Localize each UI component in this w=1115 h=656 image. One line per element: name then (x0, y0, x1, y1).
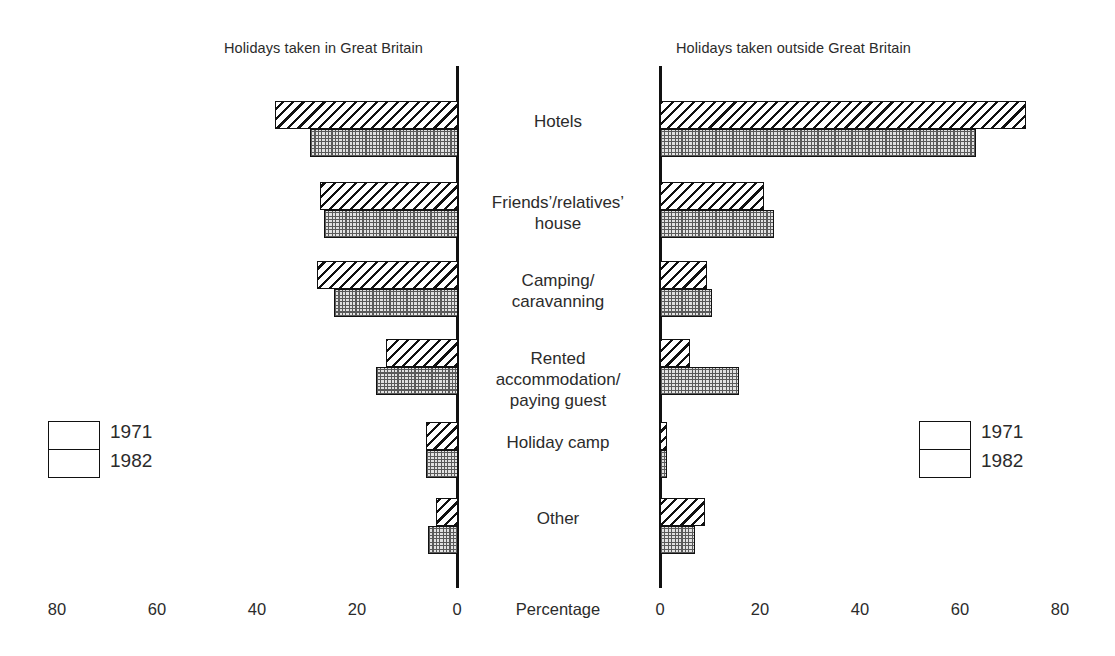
bar-left-other-1971 (436, 498, 458, 526)
chart-container: Holidays taken in Great Britain Holidays… (0, 0, 1115, 656)
category-label-line: Rented (462, 348, 654, 369)
category-label-other: Other (462, 508, 654, 529)
category-label-friends-relatives-house: Friends’/relatives’ house (462, 192, 654, 234)
bar-right-friends-relatives-house-1971 (660, 182, 764, 210)
legend-swatch-1971 (919, 421, 971, 450)
bar-left-camping-caravanning-1971 (317, 261, 458, 289)
category-label-rented-accommodation-paying-guest: Rented accommodation/ paying guest (462, 348, 654, 411)
category-label-camping-caravanning: Camping/ caravanning (462, 270, 654, 312)
xtick-right-20: 20 (730, 600, 790, 619)
bar-right-holiday-camp-1971 (660, 422, 667, 450)
legend-swatch-1971 (48, 421, 100, 450)
axis-caption-percentage: Percentage (458, 600, 658, 619)
xtick-left-60: 60 (127, 600, 187, 619)
category-label-line: house (462, 213, 654, 234)
xtick-left-20: 20 (327, 600, 387, 619)
xtick-right-80: 80 (1030, 600, 1090, 619)
bar-right-holiday-camp-1982 (660, 450, 667, 478)
bar-left-holiday-camp-1971 (426, 422, 458, 450)
legend-swatch-1982 (919, 449, 971, 478)
legend-label-1982: 1982 (110, 446, 152, 475)
legend-swatch-1982 (48, 449, 100, 478)
legend-label-1982: 1982 (981, 446, 1023, 475)
xtick-left-80: 80 (27, 600, 87, 619)
bar-left-camping-caravanning-1982 (334, 289, 458, 317)
legend-label-1971: 1971 (110, 417, 152, 446)
panel-title-left: Holidays taken in Great Britain (224, 40, 423, 56)
category-label-hotels: Hotels (462, 111, 654, 132)
category-label-line: Hotels (462, 111, 654, 132)
bar-right-hotels-1971 (660, 101, 1026, 129)
category-label-line: Other (462, 508, 654, 529)
bar-right-rented-accommodation-paying-guest-1971 (660, 339, 690, 367)
bar-left-hotels-1971 (275, 101, 458, 129)
legend-left-labels: 1971 1982 (110, 417, 152, 475)
bar-right-other-1971 (660, 498, 705, 526)
bar-right-camping-caravanning-1971 (660, 261, 707, 289)
legend-label-1971: 1971 (981, 417, 1023, 446)
category-label-line: Friends’/relatives’ (462, 192, 654, 213)
panel-title-right: Holidays taken outside Great Britain (676, 40, 911, 56)
category-label-line: accommodation/ (462, 369, 654, 390)
category-label-holiday-camp: Holiday camp (462, 432, 654, 453)
category-label-line: paying guest (462, 390, 654, 411)
bar-left-hotels-1982 (310, 129, 458, 157)
bar-left-rented-accommodation-paying-guest-1971 (386, 339, 458, 367)
xtick-left-40: 40 (227, 600, 287, 619)
bar-left-friends-relatives-house-1982 (324, 210, 458, 238)
bar-left-rented-accommodation-paying-guest-1982 (376, 367, 458, 395)
xtick-right-40: 40 (830, 600, 890, 619)
legend-left-swatches (48, 421, 100, 479)
category-label-line: Holiday camp (462, 432, 654, 453)
xtick-right-60: 60 (930, 600, 990, 619)
xtick-right-0: 0 (630, 600, 690, 619)
bar-right-friends-relatives-house-1982 (660, 210, 774, 238)
bar-right-hotels-1982 (660, 129, 976, 157)
bar-right-other-1982 (660, 526, 695, 554)
bar-right-camping-caravanning-1982 (660, 289, 712, 317)
bar-right-rented-accommodation-paying-guest-1982 (660, 367, 739, 395)
bar-left-friends-relatives-house-1971 (320, 182, 458, 210)
category-label-line: caravanning (462, 291, 654, 312)
bar-left-other-1982 (428, 526, 458, 554)
legend-right-swatches (919, 421, 971, 479)
legend-right-labels: 1971 1982 (981, 417, 1023, 475)
bar-left-holiday-camp-1982 (426, 450, 458, 478)
category-label-line: Camping/ (462, 270, 654, 291)
